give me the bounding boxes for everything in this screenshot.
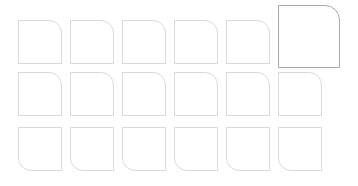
tile[interactable] [226,127,270,171]
tile[interactable] [70,20,114,64]
tile[interactable] [278,72,322,116]
tile[interactable] [174,72,218,116]
tile[interactable] [174,20,218,64]
tile[interactable] [226,20,270,64]
tile[interactable] [70,127,114,171]
tile[interactable] [18,20,62,64]
tile[interactable] [278,127,322,171]
tile[interactable] [70,72,114,116]
tile[interactable] [122,127,166,171]
tile[interactable] [226,72,270,116]
tile[interactable] [122,20,166,64]
tile-selected[interactable] [278,5,340,68]
tile[interactable] [18,127,62,171]
tile[interactable] [122,72,166,116]
tile[interactable] [18,72,62,116]
tile[interactable] [174,127,218,171]
shape-grid-canvas [0,0,358,186]
